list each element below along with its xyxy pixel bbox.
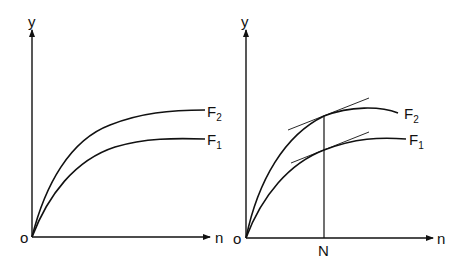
left-x-axis-label: n	[215, 229, 223, 246]
left-curve-f2	[32, 110, 205, 237]
n-marker-label: N	[318, 242, 329, 259]
right-panel: y n o N F2 F1	[233, 13, 445, 259]
tangent-line-f2	[288, 98, 369, 130]
right-label-f2: F2	[404, 105, 419, 125]
left-origin-label: o	[20, 229, 28, 246]
right-curve-f1	[246, 138, 406, 238]
tangent-line-f1	[291, 132, 369, 163]
left-panel: y n o F2 F1	[20, 13, 223, 246]
diagram: y n o F2 F1 y n o N F2 F1	[0, 0, 462, 268]
right-origin-label: o	[233, 230, 241, 247]
right-curve-f2	[246, 108, 398, 238]
left-y-axis-label: y	[28, 13, 36, 30]
left-label-f1: F1	[207, 131, 222, 151]
right-y-axis-label: y	[241, 13, 249, 30]
left-curve-f1	[32, 139, 205, 237]
right-label-f1: F1	[409, 131, 424, 151]
right-x-axis-label: n	[437, 230, 445, 247]
left-label-f2: F2	[207, 103, 222, 123]
